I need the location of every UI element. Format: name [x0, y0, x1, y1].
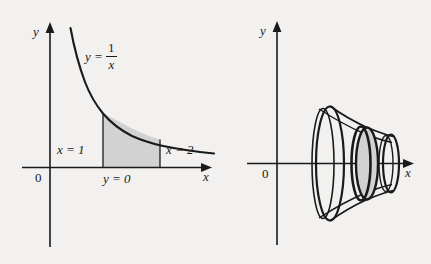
figure-container: y x 0 y = 1 x x = 1 x = 2 y = 0 — [0, 0, 431, 264]
left-origin-label: 0 — [35, 171, 42, 184]
right-y-axis-label: y — [260, 24, 266, 37]
right-x-axis-label: x — [405, 166, 411, 179]
left-x-axis-label: x — [203, 170, 209, 183]
left-boundary-label: x = 1 — [57, 143, 85, 156]
right-boundary-label: x = 2 — [166, 143, 194, 156]
right-origin-label: 0 — [262, 167, 269, 180]
y-axis-arrow-icon — [46, 22, 55, 33]
y-axis-arrow-icon — [273, 21, 282, 32]
left-y-axis-label: y — [33, 25, 39, 38]
curve-equation-lhs: y = — [85, 49, 103, 65]
fraction-one-over-x: 1 x — [106, 41, 117, 71]
fraction-numerator: 1 — [106, 41, 117, 54]
bottom-boundary-label: y = 0 — [103, 172, 131, 185]
panel-region-under-curve: y x 0 y = 1 x x = 1 x = 2 y = 0 — [0, 0, 216, 264]
fraction-denominator: x — [106, 58, 116, 71]
panel-solid-of-revolution: y x 0 — [215, 0, 431, 264]
right-panel-graphic — [215, 0, 431, 264]
curve-equation-label: y = 1 x — [85, 42, 117, 72]
